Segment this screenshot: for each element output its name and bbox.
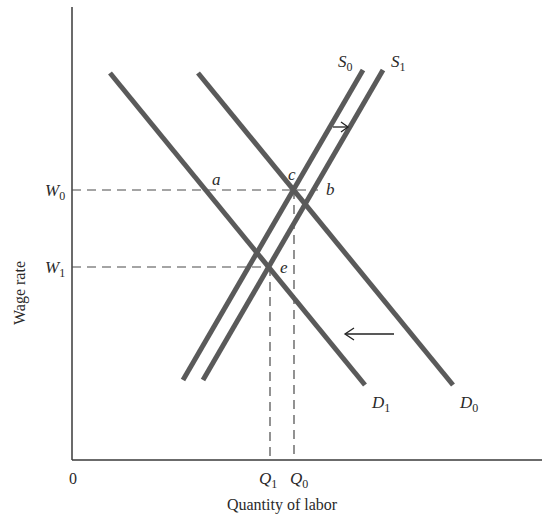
s1-label: S1 [391, 52, 406, 74]
demand-shift-arrow [345, 328, 394, 340]
d0-label: D0 [459, 393, 478, 415]
point-b-label: b [326, 180, 335, 199]
w1-label: W1 [45, 258, 65, 280]
d1-label: D1 [371, 393, 390, 415]
origin-label: 0 [69, 470, 77, 487]
q1-label: Q1 [259, 469, 277, 491]
labor-market-diagram: Wage rate Quantity of labor 0 W0 W1 Q1 Q… [0, 0, 551, 522]
w0-label: W0 [45, 181, 65, 203]
point-a-label: a [212, 170, 221, 189]
y-axis-label: Wage rate [11, 261, 29, 325]
s0-label: S0 [338, 52, 353, 74]
point-c-label: c [288, 165, 296, 184]
point-e-label: e [280, 258, 288, 277]
supply-curve-s0 [183, 70, 363, 380]
q0-label: Q0 [290, 469, 308, 491]
x-axis-label: Quantity of labor [227, 496, 338, 514]
dashed-guides [72, 190, 318, 460]
